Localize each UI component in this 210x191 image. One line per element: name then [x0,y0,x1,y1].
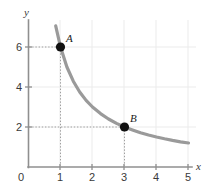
y-tick-label-4: 4 [16,82,22,93]
chart-canvas [0,0,210,191]
point-b-label: B [130,113,137,124]
x-tick-label-5: 5 [185,172,191,183]
x-axis-label: x [196,161,201,172]
axes [28,20,192,168]
y-axis-label: y [24,7,29,18]
x-tick-label-2: 2 [89,172,95,183]
point-b-marker [120,122,129,131]
x-tick-label-4: 4 [153,172,159,183]
x-tick-label-1: 1 [57,172,63,183]
tick-marks [25,47,188,170]
y-tick-label-2: 2 [16,122,22,133]
point-guides [29,47,125,167]
x-tick-label-3: 3 [121,172,127,183]
point-a-marker [56,42,65,51]
point-a-label: A [66,33,73,44]
origin-tick-label: 0 [18,172,24,183]
chart-container: y x 0 2 4 6 1 2 3 4 5 A B [0,0,210,191]
gridlines [28,20,196,167]
y-tick-label-6: 6 [16,42,22,53]
